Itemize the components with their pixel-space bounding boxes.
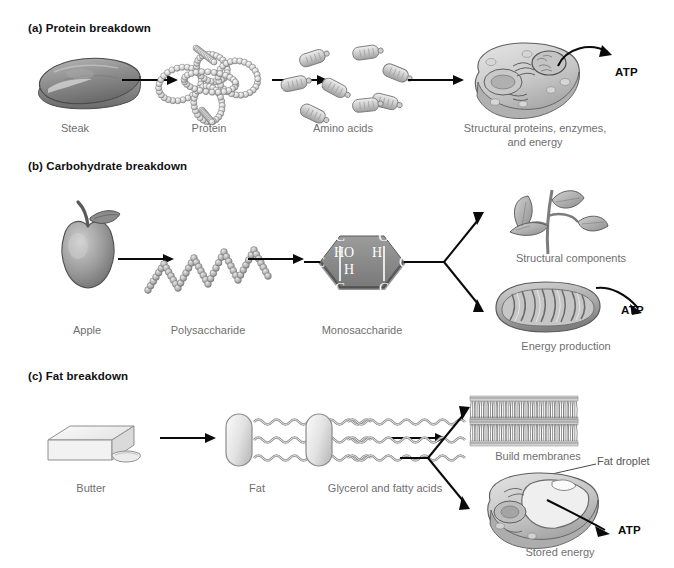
mitochondrion-illustration: [488, 276, 610, 338]
hex-vertex-c-topleft: C: [335, 228, 345, 244]
caption-fat: Fat: [222, 482, 292, 495]
monosaccharide-hexagon-illustration: C C O C C C HO H H: [300, 224, 424, 300]
amino-acid-capsules-illustration: [278, 40, 408, 130]
hex-vertex-c-bottomright: C: [379, 280, 389, 296]
caption-energy-production: Energy production: [476, 340, 656, 353]
caption-structural-components: Structural components: [478, 252, 664, 265]
section-c-heading: (c) Fat breakdown: [28, 370, 128, 382]
annotation-fat-droplet: Fat droplet: [597, 455, 650, 467]
hex-vertex-c-bottomleft: C: [335, 280, 345, 296]
caption-cell-line1: Structural proteins, enzymes,: [464, 122, 606, 134]
arrow-polysaccharide-to-monosaccharide: [248, 252, 306, 266]
protein-tangle-illustration: [150, 34, 268, 126]
caption-monosaccharide: Monosaccharide: [298, 324, 426, 337]
hex-label-h-right: H: [372, 245, 382, 260]
atp-arrow-section-c: [545, 498, 621, 540]
caption-cell-line2: and energy: [507, 136, 562, 148]
caption-cell-products: Structural proteins, enzymes, and energy: [440, 122, 630, 149]
atp-label-section-c: ATP: [618, 524, 641, 536]
caption-polysaccharide: Polysaccharide: [140, 324, 276, 337]
caption-apple: Apple: [32, 324, 142, 337]
atp-label-section-a: ATP: [615, 66, 638, 78]
butter-block-illustration: [42, 418, 152, 474]
hex-vertex-o-topright: O: [379, 228, 390, 244]
caption-steak: Steak: [20, 122, 130, 135]
caption-amino-acids: Amino acids: [288, 122, 398, 135]
section-b-heading: (b) Carbohydrate breakdown: [28, 160, 187, 172]
caption-protein: Protein: [155, 122, 263, 135]
section-a-heading: (a) Protein breakdown: [28, 22, 151, 34]
hex-label-ho: HO: [334, 245, 354, 260]
arrow-butter-to-fat: [160, 431, 218, 445]
plant-sprout-illustration: [486, 186, 612, 258]
lipid-bilayer-illustration: [470, 396, 578, 446]
hex-label-h-left: H: [344, 262, 354, 277]
caption-stored-energy: Stored energy: [500, 546, 620, 559]
glycerol-capsule-illustration: [302, 408, 342, 472]
caption-butter: Butter: [36, 482, 146, 495]
arrow-amino-acids-to-cell: [408, 73, 466, 87]
atp-label-section-b: ATP: [621, 304, 644, 316]
